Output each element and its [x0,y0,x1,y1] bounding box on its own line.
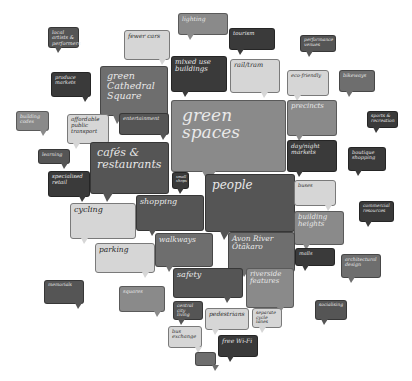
bubble-label: cafés & restaurants [97,147,162,170]
bubble-small-shops: small shops [172,172,189,189]
bubble-boutique-shopping: boutique shopping [348,147,386,171]
bubble-local-artists: local artists & performers [48,27,79,48]
bubble-pedestrians: pedestrians [205,308,249,330]
bubble-label: Avon River Ōtākaro [232,235,291,251]
bubble-free-wi-fi: free Wi-Fi [218,335,258,357]
bubble-building-codes: building codes [16,111,49,131]
bubble-squares: squares [119,286,165,312]
bubble-building-heights: building heights [294,211,344,245]
bubble-socialising: socialising [315,300,347,320]
bubble-label: learning [42,152,66,157]
bubble-cafes-and-restaurants: cafés & restaurants [90,142,169,194]
bubble-blank [195,352,216,366]
bubble-parking: parking [95,243,155,273]
bubble-cycling: cycling [70,203,136,239]
bubble-label: malls [299,251,331,256]
bubble-label: produce markets [55,75,87,86]
bubble-label: free Wi-Fi [222,338,254,344]
bubble-bus-exchange: bus exchange [168,326,202,348]
bubble-label: building heights [298,214,340,229]
bubble-label: rail/tram [234,62,276,69]
bubble-label: performance venues [304,38,332,47]
bubble-label: people [212,179,288,192]
bubble-tourism: tourism [229,28,275,50]
bubble-label: affordable public transport [71,117,105,134]
bubble-malls: malls [295,248,335,266]
bubble-specialised-retail: specialised retail [48,171,90,197]
bubble-commercial-resources: commercial resources [359,201,394,222]
bubble-label: commercial resources [363,204,390,213]
bubble-shopping: shopping [136,195,204,231]
bubble-label: specialised retail [52,174,86,186]
bubble-label: mixed use buildings [175,59,223,74]
bubble-label: fewer cars [128,33,166,39]
bubble-eco-friendly: eco-friendly [287,70,329,96]
bubble-day-night-markets: day/night markets [287,140,337,172]
bubble-label: sports & recreation [371,114,394,123]
bubble-green-cathedral-square: green Cathedral Square [100,66,168,116]
bubble-label: shopping [140,198,200,206]
bubble-produce-markets: produce markets [51,72,91,97]
bubble-label: day/night markets [291,143,333,156]
bubble-label: parking [99,246,151,254]
bubble-label: local artists & performers [52,30,75,46]
bubble-label: architectural design [345,257,377,267]
bubble-label: cycling [74,206,132,214]
speech-bubble-cloud: local artists & performersfewer carsligh… [0,0,412,381]
bubble-label: building codes [20,114,45,124]
bubble-fewer-cars: fewer cars [124,30,170,60]
bubble-precincts: precincts [287,100,337,136]
bubble-label: boutique shopping [352,150,382,161]
bubble-label: squares [123,289,161,294]
bubble-label: safety [177,271,239,279]
bubble-green-spaces: green spaces [171,100,286,172]
bubble-entertainment: entertainment [119,113,169,135]
bubble-label: tourism [233,31,271,37]
bubble-label: precincts [291,103,333,110]
bubble-bikeways: bikeways [339,70,375,92]
bubble-label: green Cathedral Square [107,71,161,101]
bubble-walkways: walkways [155,233,213,267]
bubble-label: eco-friendly [291,73,325,78]
bubble-label: memorials [48,283,80,288]
bubble-affordable-public-transport: affordable public transport [67,114,109,144]
bubble-memorials: memorials [44,280,84,304]
bubble-riverside-features: riverside features [246,268,294,308]
bubble-label: green spaces [182,107,275,141]
bubble-label: small shops [176,175,185,183]
bubble-label: walkways [159,236,209,244]
bubble-label: bus exchange [172,329,198,340]
bubble-separate-cycle-lanes: separate cycle lanes [252,308,282,328]
bubble-label: buses [298,183,332,188]
bubble-learning: learning [38,149,70,164]
bubble-label: pedestrians [209,311,245,317]
bubble-label: bikeways [343,73,371,78]
bubble-architectural-design: architectural design [341,254,381,278]
bubble-buses: buses [294,180,336,206]
bubble-label: entertainment [123,116,165,121]
bubble-performance-venues: performance venues [300,35,336,52]
bubble-avon-river-otakaro: Avon River Ōtākaro [228,232,295,272]
bubble-people: people [205,174,295,232]
bubble-label: riverside features [250,271,290,286]
bubble-label: central city living [177,304,199,318]
bubble-lighting: lighting [178,13,228,35]
bubble-rail-tram: rail/tram [230,59,280,93]
bubble-label: lighting [182,16,224,22]
bubble-central-city-living: central city living [173,301,203,320]
bubble-label: socialising [319,303,343,308]
bubble-mixed-use-buildings: mixed use buildings [171,56,227,92]
bubble-label: separate cycle lanes [256,311,278,325]
bubble-safety: safety [173,268,243,298]
bubble-sports-recreation: sports & recreation [367,111,398,128]
